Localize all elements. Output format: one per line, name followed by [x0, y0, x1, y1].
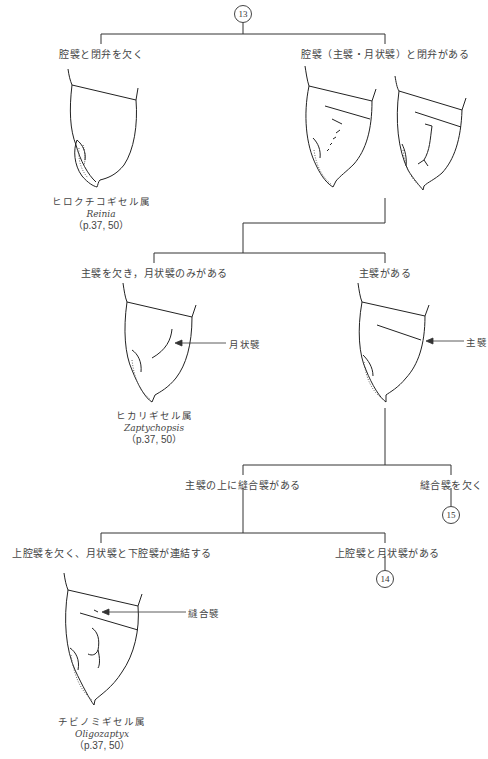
node-15: 15	[442, 506, 460, 524]
genus-sci-name: Reinia	[52, 208, 151, 220]
genus-jp-name: ヒカリギセル属	[116, 410, 193, 422]
couplet-13-right-label: 腔襞（主襞・月状襞）と閉弁がある	[301, 46, 469, 61]
connector-c	[101, 488, 385, 543]
label-sutural-fold: 縫合襞	[188, 606, 220, 620]
label-lunate-fold: 月状襞	[229, 337, 261, 351]
node-14: 14	[376, 570, 394, 588]
node-13: 13	[234, 5, 252, 23]
genus-jp-name: チビノミギセル属	[58, 716, 146, 728]
caption-zaptychopsis: ヒカリギセル属 Zaptychopsis （p.37, 50）	[116, 410, 193, 446]
caption-reinia: ヒロクチコギセル属 Reinia （p.37, 50）	[52, 196, 151, 232]
shell-main-fold-drawing	[358, 283, 429, 402]
shell-reinia-drawing	[68, 69, 138, 187]
genus-sci-name: Oligozaptyx	[58, 728, 146, 740]
couplet-c-left-label: 上腔襞を欠く、月状襞と下腔襞が連結する	[12, 545, 212, 560]
page-reference: （p.37, 50）	[58, 740, 146, 752]
shell-b-drawing	[305, 66, 376, 187]
pointer-main-fold	[426, 338, 464, 344]
genus-jp-name: ヒロクチコギセル属	[52, 196, 151, 208]
pointer-lunate-fold	[175, 340, 226, 346]
couplet-b-left-label: 主襞の上に縫合襞がある	[185, 477, 301, 492]
couplet-c-right-label: 上腔襞と月状襞がある	[335, 545, 440, 560]
caption-oligozaptyx: チビノミギセル属 Oligozaptyx （p.37, 50）	[58, 716, 146, 752]
shell-oligozaptyx-drawing	[64, 573, 142, 705]
shell-c-drawing	[395, 76, 466, 190]
genus-sci-name: Zaptychopsis	[116, 422, 193, 434]
page-reference: （p.37, 50）	[116, 434, 193, 446]
couplet-13-left-label: 腔襞と閉弁を欠く	[59, 46, 143, 61]
label-main-fold: 主襞	[466, 335, 487, 349]
couplet-b-right-label: 縫合襞を欠く	[420, 477, 483, 492]
couplet-a-right-label: 主襞がある	[359, 265, 412, 280]
page-reference: （p.37, 50）	[52, 220, 151, 232]
connector-13	[101, 22, 385, 44]
shell-zaptychopsis-drawing	[123, 283, 196, 402]
diagram-canvas	[0, 0, 488, 759]
pointer-sutural-fold	[102, 609, 186, 615]
connector-b	[243, 408, 451, 475]
connector-a	[154, 198, 385, 263]
couplet-a-left-label: 主襞を欠き，月状襞のみがある	[81, 265, 228, 280]
